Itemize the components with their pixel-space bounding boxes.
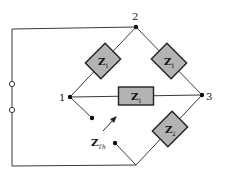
impedance-middle: Z 1 [119,87,154,105]
svg-text:1: 1 [171,62,175,69]
node-1-label: 1 [59,92,65,103]
svg-text:2: 2 [172,130,176,137]
node-2-label: 2 [132,11,138,22]
node-3-label: 3 [206,91,212,102]
open-terminal-top [9,81,14,86]
svg-text:Th: Th [98,143,106,150]
svg-text:1: 1 [105,62,109,69]
open-terminal-bottom [9,107,14,112]
outer-wire-top [12,27,136,81]
thevenin-terminal-a [90,116,94,120]
node-2-dot [134,25,138,29]
thevenin-terminal-b [113,141,117,145]
outer-wire-bottom [12,113,136,166]
bridge-circuit-diagram: Z 1 Z 1 Z 1 Z 2 2 1 3 Z Th [0,0,225,178]
svg-text:1: 1 [138,97,142,104]
node-3-dot [200,93,204,97]
thevenin-label: Z Th [91,137,106,150]
node-1-dot [68,95,72,99]
wire-bottom-terminal [115,143,136,165]
wire-node1-terminal [70,97,92,118]
